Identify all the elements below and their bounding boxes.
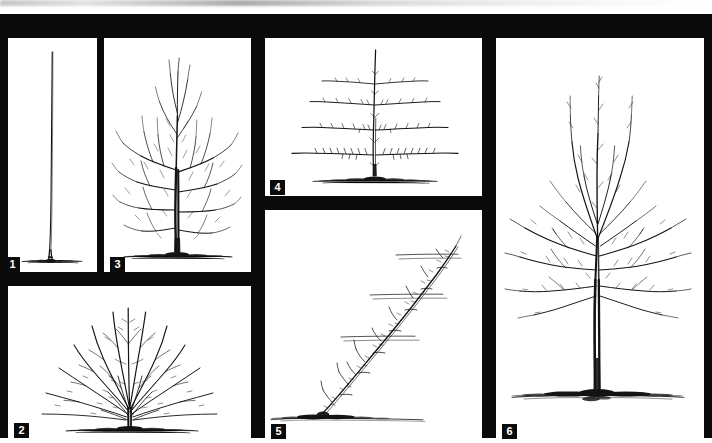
panel-6-central-leader-standard[interactable] <box>496 38 704 443</box>
panel-3-dense-branched-tree[interactable] <box>104 38 251 272</box>
panel-1-artwork <box>8 38 97 272</box>
panel-5-oblique-cordon[interactable] <box>265 210 482 443</box>
panel-number-badge-3: 3 <box>110 257 125 272</box>
panel-6-artwork <box>496 38 704 443</box>
panel-number-badge-5: 5 <box>271 424 286 439</box>
panel-4-horizontal-espalier[interactable] <box>265 38 482 196</box>
panel-number-badge-1: 1 <box>5 257 20 272</box>
panel-number-badge-4: 4 <box>270 180 285 195</box>
panel-5-artwork <box>265 210 482 443</box>
panel-1-whip[interactable] <box>8 38 97 272</box>
panel-2-artwork <box>8 286 251 443</box>
panel-2-vase-fan-form[interactable] <box>8 286 251 443</box>
figure-plate-frame: 1 <box>0 14 712 438</box>
panel-number-badge-6: 6 <box>502 424 517 439</box>
scan-smudge-artifact <box>0 0 712 6</box>
panel-4-artwork <box>265 38 482 196</box>
panel-3-artwork <box>104 38 251 272</box>
panel-number-badge-2: 2 <box>14 423 29 438</box>
